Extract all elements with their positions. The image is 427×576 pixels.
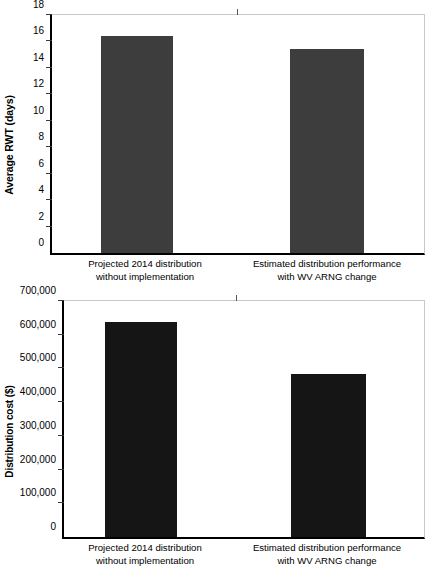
x-category-label-rwt-2: Estimated distribution performance with … bbox=[231, 257, 423, 283]
y-ticklabel-rwt-6: 6 bbox=[38, 159, 44, 169]
x-axis-center-tick-rwt bbox=[237, 9, 238, 15]
x-category-label-cost-1: Projected 2014 distribution without impl… bbox=[50, 541, 240, 567]
y-ticklabel-rwt-2: 2 bbox=[38, 212, 44, 222]
y-ticklabel-rwt-12: 12 bbox=[33, 79, 44, 89]
y-ticklabel-rwt-14: 14 bbox=[33, 53, 44, 63]
y-ticklabel-rwt-0: 0 bbox=[38, 238, 44, 248]
x-category-label-rwt-2-line2: with WV ARNG change bbox=[231, 270, 423, 283]
y-tick-rwt-16 bbox=[46, 40, 52, 41]
x-axis-center-tick-cost bbox=[236, 295, 237, 301]
y-ticklabel-cost-100000: 100,000 bbox=[20, 488, 56, 498]
y-ticklabel-rwt-16: 16 bbox=[33, 26, 44, 36]
y-axis-title-cost-text: Distribution cost ($) bbox=[4, 385, 15, 477]
y-tick-cost-700000 bbox=[58, 300, 64, 301]
y-tick-rwt-10 bbox=[46, 120, 52, 121]
chart-average-rwt: Average RWT (days) 0 2 4 6 8 10 12 14 16… bbox=[0, 0, 427, 290]
bar-cost-estimated-wv-arng bbox=[291, 374, 366, 538]
y-ticklabel-cost-600000: 600,000 bbox=[20, 320, 56, 330]
plot-area-rwt: 0 2 4 6 8 10 12 14 16 18 bbox=[50, 14, 425, 255]
x-category-label-cost-2-line1: Estimated distribution performance bbox=[253, 542, 401, 553]
y-axis-title-rwt-text: Average RWT (days) bbox=[3, 95, 15, 195]
plot-area-cost: 0 100,000 200,000 300,000 400,000 500,00… bbox=[62, 300, 425, 539]
y-axis-title-cost: Distribution cost ($) bbox=[0, 286, 18, 576]
y-tick-rwt-12 bbox=[46, 93, 52, 94]
y-ticklabel-rwt-8: 8 bbox=[38, 132, 44, 142]
y-ticklabel-cost-400000: 400,000 bbox=[20, 387, 56, 397]
y-tick-rwt-14 bbox=[46, 67, 52, 68]
y-tick-rwt-8 bbox=[46, 146, 52, 147]
y-ticklabel-cost-700000: 700,000 bbox=[20, 286, 56, 296]
chart-distribution-cost: Distribution cost ($) 0 100,000 200,000 … bbox=[0, 286, 427, 576]
y-tick-cost-600000 bbox=[58, 334, 64, 335]
y-tick-cost-400000 bbox=[58, 401, 64, 402]
x-category-label-rwt-2-line1: Estimated distribution performance bbox=[253, 258, 401, 269]
x-category-label-rwt-1-line1: Projected 2014 distribution bbox=[88, 258, 202, 269]
bar-cost-projected-2014 bbox=[105, 322, 177, 537]
x-category-label-rwt-1-line2: without implementation bbox=[50, 270, 240, 283]
y-tick-rwt-6 bbox=[46, 173, 52, 174]
bar-rwt-estimated-wv-arng bbox=[290, 49, 364, 253]
bar-rwt-projected-2014 bbox=[101, 36, 174, 253]
y-ticklabel-rwt-10: 10 bbox=[33, 106, 44, 116]
y-tick-rwt-18 bbox=[46, 14, 52, 15]
y-ticklabel-cost-200000: 200,000 bbox=[20, 455, 56, 465]
x-category-label-cost-2: Estimated distribution performance with … bbox=[231, 541, 423, 567]
x-category-label-cost-1-line2: without implementation bbox=[50, 554, 240, 567]
y-axis-title-rwt: Average RWT (days) bbox=[0, 0, 18, 290]
y-ticklabel-cost-0: 0 bbox=[50, 522, 56, 532]
y-ticklabel-cost-300000: 300,000 bbox=[20, 421, 56, 431]
y-ticklabel-rwt-4: 4 bbox=[38, 185, 44, 195]
y-tick-cost-500000 bbox=[58, 367, 64, 368]
x-category-label-cost-1-line1: Projected 2014 distribution bbox=[88, 542, 202, 553]
x-category-label-rwt-1: Projected 2014 distribution without impl… bbox=[50, 257, 240, 283]
y-tick-rwt-4 bbox=[46, 199, 52, 200]
y-tick-cost-300000 bbox=[58, 435, 64, 436]
y-tick-rwt-2 bbox=[46, 226, 52, 227]
y-tick-cost-200000 bbox=[58, 469, 64, 470]
y-ticklabel-cost-500000: 500,000 bbox=[20, 353, 56, 363]
y-ticklabel-rwt-18: 18 bbox=[33, 0, 44, 10]
y-tick-cost-100000 bbox=[58, 502, 64, 503]
x-category-label-cost-2-line2: with WV ARNG change bbox=[231, 554, 423, 567]
